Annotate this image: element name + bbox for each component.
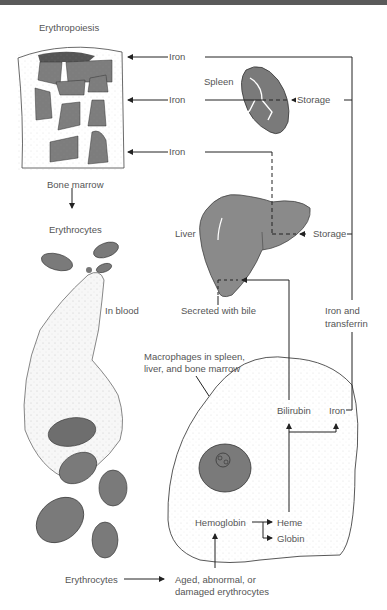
label-macrophages-2: liver, and bone marrow <box>143 363 241 374</box>
liver-illustration <box>200 195 311 297</box>
label-in-blood: In blood <box>104 305 140 316</box>
label-hemoglobin: Hemoglobin <box>194 517 247 528</box>
label-liver: Liver <box>174 228 197 239</box>
label-iron-1: Iron <box>168 51 186 62</box>
label-spleen: Spleen <box>203 76 235 87</box>
label-secreted-with-bile: Secreted with bile <box>180 305 257 316</box>
label-aged-1: Aged, abnormal, or <box>174 574 257 585</box>
label-storage-spleen: Storage <box>296 94 331 105</box>
label-iron-2: Iron <box>168 94 186 105</box>
blood-vessel-illustration <box>24 239 127 558</box>
label-erythrocytes-top: Erythrocytes <box>48 224 103 235</box>
label-macrophages-1: Macrophages in spleen, <box>143 351 246 362</box>
label-iron-3: Iron <box>168 146 186 157</box>
label-iron-and-transferrin-2: transferrin <box>324 318 369 329</box>
label-iron-and-transferrin-1: Iron and <box>324 305 361 316</box>
label-bone-marrow: Bone marrow <box>46 179 105 190</box>
label-heme: Heme <box>276 517 303 528</box>
label-globin: Globin <box>276 533 305 544</box>
label-storage-liver: Storage <box>312 228 347 239</box>
label-erythropoiesis: Erythropoiesis <box>38 22 100 33</box>
label-iron-macrophage: Iron <box>328 405 346 416</box>
label-erythrocytes-bottom: Erythrocytes <box>64 574 119 585</box>
label-aged-2: damaged erythrocytes <box>174 586 270 597</box>
bone-marrow-illustration <box>18 47 124 170</box>
label-bilirubin: Bilirubin <box>276 405 312 416</box>
